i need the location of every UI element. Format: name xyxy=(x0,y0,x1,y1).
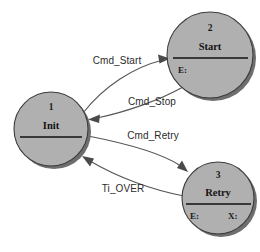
state-node-start-number: 2 xyxy=(208,23,213,33)
transition-init-to-retry-label: Cmd_Retry xyxy=(127,130,178,141)
state-node-retry[interactable]: 3 Retry E: X: xyxy=(182,162,257,237)
state-node-init-name: Init xyxy=(43,120,60,131)
state-node-retry-name: Retry xyxy=(205,187,231,198)
transition-start-to-init-label: Cmd_Stop xyxy=(128,96,176,107)
state-node-retry-slot-exit: X: xyxy=(228,211,238,221)
state-node-init-number: 1 xyxy=(49,102,54,112)
transition-init-to-retry[interactable]: Cmd_Retry xyxy=(88,130,188,172)
state-diagram-canvas: Cmd_Start Cmd_Stop Cmd_Retry Ti_OVER 1 I… xyxy=(0,0,260,252)
transition-start-to-init-arrowhead xyxy=(88,115,100,124)
transition-init-to-start-label: Cmd_Start xyxy=(93,55,142,66)
state-machine-diagram: Cmd_Start Cmd_Stop Cmd_Retry Ti_OVER 1 I… xyxy=(0,0,260,252)
transition-retry-to-init[interactable]: Ti_OVER xyxy=(82,156,184,196)
transition-retry-to-init-label: Ti_OVER xyxy=(102,183,145,194)
state-node-init[interactable]: 1 Init xyxy=(14,92,91,169)
state-node-start-slot-entry: E: xyxy=(178,65,187,75)
state-node-retry-slot-entry: E: xyxy=(190,211,199,221)
transition-init-to-retry-arrowhead xyxy=(177,161,188,173)
state-node-start-name: Start xyxy=(199,41,222,52)
transition-retry-to-init-arrowhead xyxy=(82,156,94,167)
state-node-retry-number: 3 xyxy=(216,170,221,180)
state-node-start[interactable]: 2 Start E: xyxy=(167,12,256,101)
